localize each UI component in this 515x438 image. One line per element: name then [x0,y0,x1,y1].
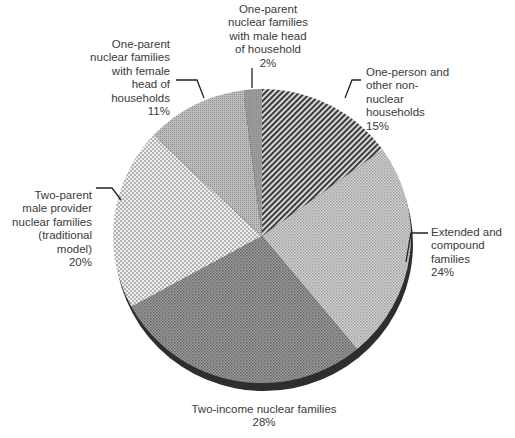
leader-line [96,188,121,200]
label-line: households [366,106,476,119]
slice-label-two-income: Two-income nuclear families 28% [158,403,370,430]
slice-label-one-parent-male: One-parent nuclear families with male he… [212,3,324,70]
label-line: One-parent [212,3,324,16]
label-line: Extended and [431,226,515,239]
label-line: of household [212,43,324,56]
label-line: households [82,92,170,105]
label-value: 20% [2,256,92,269]
label-value: 15% [366,120,476,133]
label-value: 11% [82,105,170,118]
label-line: nuclear families [82,51,170,64]
label-line: (traditional [2,229,92,242]
label-line: with male head [212,30,324,43]
label-value: 2% [212,57,324,70]
label-value: 24% [431,266,515,279]
label-line: compound [431,239,515,252]
slice-label-one-person: One-person and other non- nuclear househ… [366,66,476,133]
label-line: families [431,253,515,266]
leader-line [176,80,204,98]
leader-line [345,80,361,98]
label-line: with female [82,65,170,78]
label-line: male provider [2,202,92,215]
label-line: nuclear [366,93,476,106]
label-line: nuclear families [212,16,324,29]
label-line: One-person and [366,66,476,79]
label-line: model) [2,243,92,256]
label-line: Two-income nuclear families [158,403,370,416]
label-line: Two-parent [2,189,92,202]
slice-label-two-parent: Two-parent male provider nuclear familie… [2,189,92,269]
label-line: head of [82,78,170,91]
label-value: 28% [158,416,370,429]
slice-label-extended: Extended and compound families 24% [431,226,515,280]
slice-label-one-parent-female: One-parent nuclear families with female … [82,38,170,118]
label-line: One-parent [82,38,170,51]
label-line: nuclear families [2,216,92,229]
label-line: other non- [366,79,476,92]
